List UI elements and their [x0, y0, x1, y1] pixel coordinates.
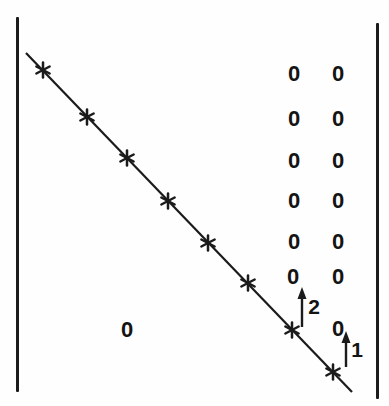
column-1-arrow-label: 1 [351, 339, 363, 360]
zero-entry: 0 [288, 63, 300, 85]
zero-entry: 0 [332, 231, 344, 253]
zero-block-lower-left: 0 [121, 319, 133, 341]
zero-entry: 0 [332, 318, 344, 340]
zero-entry: 0 [287, 266, 299, 288]
diagonal-line [26, 53, 352, 392]
column-2-arrow-icon [298, 287, 307, 327]
zero-entry: 0 [332, 266, 344, 288]
zero-entry: 0 [332, 63, 344, 85]
zero-entry: 0 [332, 150, 344, 172]
zero-entry: 0 [332, 190, 344, 212]
zero-entry: 0 [288, 190, 300, 212]
matrix-figure: 0 0 0 0 0 0 0 0 0 0 0 0 0 0 2 1 [0, 0, 389, 406]
zero-entry: 0 [288, 231, 300, 253]
diagonal-and-arrows-layer [0, 0, 389, 406]
zero-entry: 0 [288, 108, 300, 130]
zero-entry: 0 [332, 108, 344, 130]
column-2-arrow-label: 2 [308, 296, 320, 317]
zero-entry: 0 [288, 150, 300, 172]
